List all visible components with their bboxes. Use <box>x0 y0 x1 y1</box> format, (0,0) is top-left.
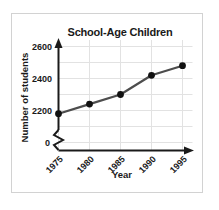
data-point-1985 <box>117 91 124 98</box>
chart-figure-frame: School-Age Children Number of students Y… <box>11 13 203 193</box>
data-point-1990 <box>148 72 155 79</box>
data-point-1975 <box>55 110 62 117</box>
data-point-1980 <box>86 101 93 108</box>
y-axis-arrowhead <box>55 38 63 48</box>
data-point-1995 <box>179 62 186 69</box>
chart-plot-area <box>12 14 204 194</box>
horizontal-gridlines <box>59 47 193 143</box>
x-axis-arrowhead <box>184 147 194 155</box>
